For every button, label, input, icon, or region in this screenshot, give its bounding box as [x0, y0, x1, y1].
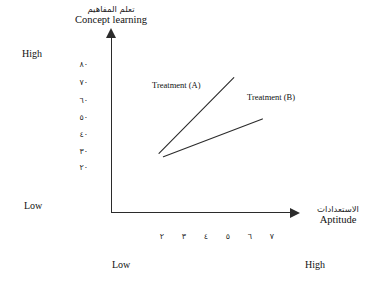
x-axis-anchor-low: Low [112, 259, 130, 270]
series-label-treatment-a: Treatment (A) [152, 80, 201, 90]
series-label-treatment-b: Treatment (B) [247, 92, 295, 102]
y-axis-anchor-low: Low [24, 200, 42, 211]
series-line-treatment-b [163, 119, 262, 157]
aptitude-treatment-interaction-chart: تعلم المفاهيم Concept learning الاستعداد… [0, 0, 380, 290]
x-axis-line [111, 212, 291, 213]
plot-area [0, 0, 380, 290]
x-tick-label: ٤ [199, 232, 213, 241]
y-axis-line [111, 36, 112, 213]
x-tick-label: ٢ [155, 232, 169, 241]
x-axis-title-arabic: الاستعدادات [300, 204, 376, 214]
x-tick-label: ٧ [265, 232, 279, 241]
x-axis-arrow-icon [290, 208, 300, 218]
x-tick-label: ٥ [221, 232, 235, 241]
x-axis-title-english: Aptitude [300, 214, 376, 225]
y-axis-title-english: Concept learning [46, 14, 176, 25]
y-tick-label: ٢٠ [62, 163, 88, 172]
y-axis-title: تعلم المفاهيم Concept learning [46, 4, 176, 25]
x-axis-anchor-high: High [305, 259, 325, 270]
x-tick-label: ٣ [177, 232, 191, 241]
y-tick-label: ٥٠ [62, 113, 88, 122]
y-axis-title-arabic: تعلم المفاهيم [46, 4, 176, 14]
y-tick-label: ٣٠ [62, 147, 88, 156]
x-axis-title: الاستعدادات Aptitude [300, 204, 376, 225]
y-axis-arrow-icon [106, 28, 116, 38]
y-tick-label: ٨٠ [62, 60, 88, 69]
y-tick-label: ٧٠ [62, 78, 88, 87]
y-axis-anchor-high: High [22, 48, 42, 59]
y-tick-label: ٦٠ [62, 96, 88, 105]
y-tick-label: ٤٠ [62, 130, 88, 139]
x-tick-label: ٦ [243, 232, 257, 241]
